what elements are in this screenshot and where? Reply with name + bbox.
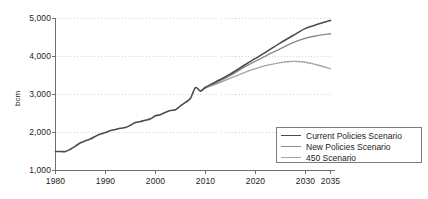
y-axis-tick-label: 1,000 [14, 165, 51, 175]
x-axis-tick-label: 1980 [36, 176, 76, 186]
x-axis-tick-label: 2000 [136, 176, 176, 186]
y-axis-tick-label: 2,000 [14, 127, 51, 137]
legend-label-new-policies-scenario: New Policies Scenario [306, 142, 391, 153]
y-axis-tick-label: 4,000 [14, 51, 51, 61]
x-axis-tick-label: 2010 [186, 176, 226, 186]
y-axis-tick-label: 3,000 [14, 89, 51, 99]
legend-label-450-scenario: 450 Scenario [306, 153, 356, 164]
legend-item-new-policies-scenario: New Policies Scenario [281, 142, 421, 153]
legend-label-current-policies-scenario: Current Policies Scenario [306, 131, 402, 142]
x-axis-tick-label: 2020 [236, 176, 276, 186]
legend-item-current-policies-scenario: Current Policies Scenario [281, 131, 421, 142]
chart-plot-area [0, 0, 428, 199]
y-axis-tick-label: 5,000 [14, 13, 51, 23]
x-axis-tick-label: 2035 [311, 176, 351, 186]
line-chart: bcm Current Policies Scenario New Polici… [0, 0, 428, 199]
legend-swatch-450-scenario [281, 157, 301, 158]
x-axis-tick-label: 1990 [86, 176, 126, 186]
chart-legend: Current Policies Scenario New Policies S… [276, 127, 422, 163]
legend-swatch-new-policies-scenario [281, 146, 301, 147]
legend-swatch-current-policies-scenario [281, 135, 301, 136]
legend-item-450-scenario: 450 Scenario [281, 153, 421, 164]
